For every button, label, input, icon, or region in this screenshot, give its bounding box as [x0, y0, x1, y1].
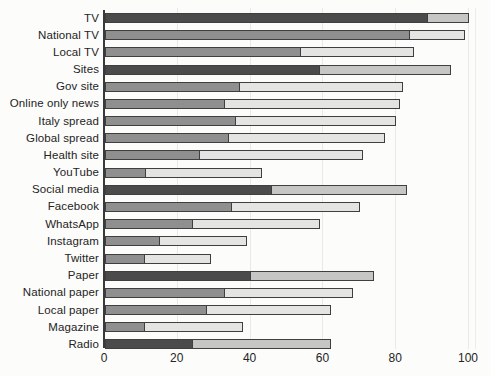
- bar-segment-primary: [106, 289, 225, 297]
- bar-row: [105, 202, 360, 212]
- bar-row: [105, 133, 385, 143]
- x-tick-label: 0: [101, 351, 108, 365]
- category-label: Paper: [0, 269, 99, 281]
- bar-row: [105, 116, 396, 126]
- bar-segment-primary: [106, 83, 240, 91]
- bar-segment-primary: [106, 323, 145, 331]
- x-tick-label: 100: [458, 351, 478, 365]
- bar-row: [105, 271, 374, 281]
- x-tick-label: 40: [243, 351, 256, 365]
- category-label: Online only news: [0, 97, 99, 109]
- bar-segment-primary: [106, 272, 251, 280]
- category-label: National paper: [0, 286, 99, 298]
- category-label: National TV: [0, 29, 99, 41]
- category-label: WhatsApp: [0, 218, 99, 230]
- bar-segment-primary: [106, 14, 428, 22]
- bar-row: [105, 185, 407, 195]
- bar-row: [105, 254, 211, 264]
- category-label: Twitter: [0, 252, 99, 264]
- bar-segment-primary: [106, 100, 225, 108]
- bar-row: [105, 47, 414, 57]
- bar-row: [105, 339, 331, 349]
- category-label: TV: [0, 12, 99, 24]
- bar-row: [105, 82, 403, 92]
- bar-segment-primary: [106, 306, 207, 314]
- bar-row: [105, 322, 243, 332]
- bar-segment-primary: [106, 203, 232, 211]
- bar-row: [105, 236, 247, 246]
- bar-segment-primary: [106, 117, 236, 125]
- bar-segment-primary: [106, 31, 410, 39]
- bar-segment-primary: [106, 237, 160, 245]
- category-label: Local paper: [0, 304, 99, 316]
- bar-row: [105, 99, 400, 109]
- bar-row: [105, 13, 469, 23]
- bar-segment-primary: [106, 186, 272, 194]
- bar-row: [105, 150, 363, 160]
- category-label: Gov site: [0, 80, 99, 92]
- bar-segment-primary: [106, 66, 320, 74]
- category-label: Instagram: [0, 235, 99, 247]
- category-label: Local TV: [0, 46, 99, 58]
- x-tick-label: 20: [170, 351, 183, 365]
- bar-row: [105, 305, 331, 315]
- gridline-x-100: [468, 8, 469, 349]
- category-label: Facebook: [0, 200, 99, 212]
- bar-segment-primary: [106, 340, 193, 348]
- bar-row: [105, 65, 451, 75]
- bar-segment-primary: [106, 48, 301, 56]
- category-label: Italy spread: [0, 115, 99, 127]
- category-label: YouTube: [0, 166, 99, 178]
- bar-row: [105, 168, 262, 178]
- bar-row: [105, 219, 320, 229]
- bar-segment-primary: [106, 169, 146, 177]
- category-label: Global spread: [0, 132, 99, 144]
- bar-row: [105, 288, 353, 298]
- category-label: Magazine: [0, 321, 99, 333]
- plot-area: [104, 8, 476, 349]
- bar-chart-figure: TVNational TVLocal TVSitesGov siteOnline…: [0, 0, 491, 376]
- category-label: Sites: [0, 63, 99, 75]
- bar-segment-primary: [106, 134, 229, 142]
- x-tick-label: 80: [389, 351, 402, 365]
- bar-segment-primary: [106, 151, 200, 159]
- category-label: Radio: [0, 338, 99, 350]
- bar-segment-primary: [106, 255, 145, 263]
- y-axis-line: [103, 10, 105, 348]
- bar-row: [105, 30, 465, 40]
- bar-segment-primary: [106, 220, 193, 228]
- category-label: Health site: [0, 149, 99, 161]
- category-label: Social media: [0, 183, 99, 195]
- x-tick-label: 60: [316, 351, 329, 365]
- gridline-x-80: [395, 8, 396, 349]
